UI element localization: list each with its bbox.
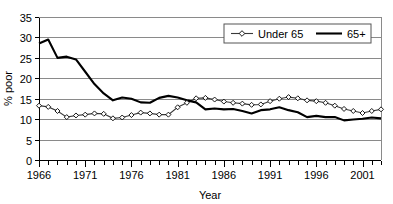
- y-tick-label-30: 30: [20, 32, 32, 44]
- legend-label-under-65: Under 65: [258, 28, 303, 40]
- data-point-marker: [212, 97, 217, 102]
- x-tick-label-1986: 1986: [212, 169, 236, 181]
- data-point-marker: [194, 96, 199, 101]
- y-axis-ticks: 05101520253035: [20, 12, 39, 167]
- data-point-marker: [46, 104, 51, 109]
- y-tick-label-0: 0: [26, 155, 32, 167]
- chart-container: 05101520253035 1966197119761981198619911…: [0, 0, 393, 204]
- data-point-marker: [305, 98, 310, 103]
- x-tick-label-1976: 1976: [119, 169, 143, 181]
- data-point-marker: [351, 108, 356, 113]
- series-line-65-: [39, 39, 381, 120]
- x-tick-label-1991: 1991: [258, 169, 282, 181]
- data-point-marker: [360, 111, 365, 116]
- data-point-marker: [147, 111, 152, 116]
- chart-legend: Under 6565+: [224, 24, 371, 43]
- x-tick-label-1981: 1981: [165, 169, 189, 181]
- data-point-marker: [295, 96, 300, 101]
- data-point-marker: [332, 103, 337, 108]
- data-point-marker: [258, 102, 263, 107]
- series-line-under-65: [39, 97, 381, 118]
- data-point-marker: [342, 106, 347, 111]
- data-point-marker: [37, 103, 42, 108]
- x-axis-ticks: 19661971197619811986199119962001: [27, 161, 382, 181]
- x-tick-label-2001: 2001: [350, 169, 374, 181]
- x-tick-label-1996: 1996: [304, 169, 328, 181]
- y-axis-title: % poor: [2, 71, 14, 106]
- data-point-marker: [157, 112, 162, 117]
- y-tick-label-10: 10: [20, 114, 32, 126]
- data-point-marker: [249, 102, 254, 107]
- data-point-marker: [83, 112, 88, 117]
- data-point-marker: [286, 95, 291, 100]
- data-series: [39, 39, 381, 120]
- x-tick-label-1966: 1966: [27, 169, 51, 181]
- y-tick-label-5: 5: [26, 135, 32, 147]
- data-point-marker: [129, 113, 134, 118]
- data-point-marker: [379, 107, 384, 112]
- y-tick-label-15: 15: [20, 94, 32, 106]
- data-point-marker: [138, 110, 143, 115]
- data-point-marker: [231, 100, 236, 105]
- data-point-marker: [101, 111, 106, 116]
- y-tick-label-25: 25: [20, 53, 32, 65]
- x-tick-label-1971: 1971: [73, 169, 97, 181]
- data-point-marker: [92, 111, 97, 116]
- data-point-marker: [369, 108, 374, 113]
- x-axis-title: Year: [199, 189, 222, 201]
- legend-label-65-plus: 65+: [347, 28, 366, 40]
- data-point-marker: [323, 100, 328, 105]
- data-point-marker: [240, 101, 245, 106]
- y-tick-label-20: 20: [20, 73, 32, 85]
- data-point-marker: [277, 96, 282, 101]
- data-point-marker: [73, 113, 78, 118]
- poverty-rate-line-chart: 05101520253035 1966197119761981198619911…: [0, 0, 393, 204]
- data-point-marker: [110, 116, 115, 121]
- y-tick-label-35: 35: [20, 12, 32, 24]
